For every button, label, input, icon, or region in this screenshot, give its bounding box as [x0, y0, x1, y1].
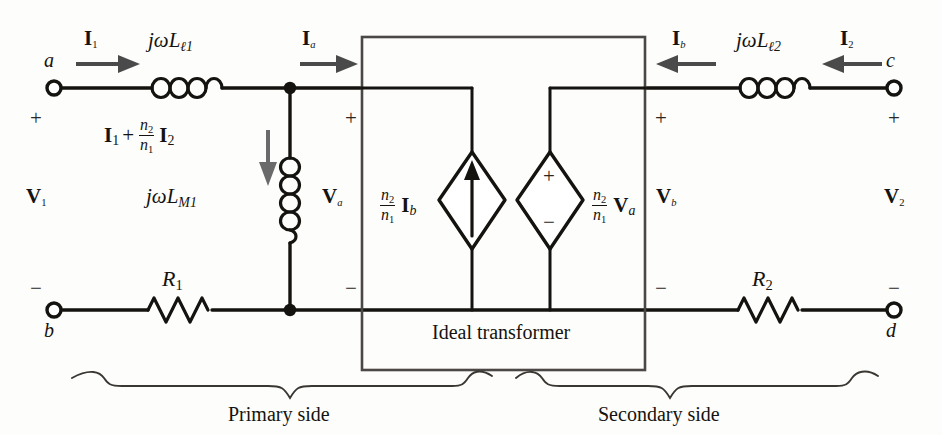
voltage-label-v1-symbol: V	[26, 184, 41, 208]
magnetizing-branch-current-expression: I1+n2n1I2	[104, 116, 174, 156]
arrow-i1	[76, 55, 140, 73]
polarity-plus-va: +	[345, 108, 357, 129]
component-label-leakage-secondary-subscript: ℓ2	[768, 39, 781, 54]
voltage-label-va-symbol: V	[322, 184, 337, 208]
component-label-leakage-primary-symbol: jωL	[148, 28, 180, 52]
node-dot-bottom	[284, 304, 296, 316]
voltage-source-label-symbol: V	[609, 193, 628, 217]
terminal-b	[47, 303, 61, 317]
turns-ratio-numerator-subscript-cs: 2	[389, 194, 394, 205]
component-label-r1-subscript: 1	[175, 277, 182, 293]
current-label-i1-symbol: I	[84, 26, 92, 50]
current-label-i2-subscript: 2	[848, 39, 853, 50]
component-label-r2-subscript: 2	[765, 277, 772, 293]
current-label-ib: Ib	[672, 28, 685, 51]
current-label-i1: I1	[84, 28, 97, 51]
voltage-label-va-subscript: a	[337, 197, 342, 208]
turns-ratio-numerator-voltage-source: n2	[592, 186, 607, 206]
voltage-label-v1: V1	[26, 186, 46, 209]
component-label-r2: R2	[752, 268, 773, 293]
voltage-label-v2-subscript: 2	[899, 197, 904, 208]
voltage-label-vb: Vb	[656, 186, 676, 209]
circuit-schematic-svg	[0, 0, 942, 435]
turns-ratio-denominator-voltage-source: n1	[592, 206, 607, 225]
polarity-minus-vb: −	[655, 278, 667, 299]
circuit-diagram: a b c d + − + − + − + − I1 Ia Ib I2 jωLℓ…	[0, 0, 942, 435]
voltage-label-v2-symbol: V	[884, 184, 899, 208]
polarity-minus-va: −	[345, 278, 357, 299]
current-label-i2-symbol: I	[840, 26, 848, 50]
turns-ratio-denominator-subscript-branch: 1	[148, 144, 153, 155]
component-label-r1: R1	[162, 268, 183, 293]
voltage-label-vb-subscript: b	[671, 197, 676, 208]
current-source-label-subscript: b	[409, 203, 416, 218]
turns-ratio-numerator-branch: n2	[139, 116, 154, 136]
terminal-c	[887, 81, 901, 95]
terminal-label-b: b	[44, 320, 54, 340]
arrow-ia	[300, 55, 358, 73]
branch-current-i1-symbol: I	[104, 123, 112, 147]
turns-ratio-denominator-subscript-vs: 1	[601, 214, 606, 225]
current-source-label: n2n1Ib	[378, 186, 416, 226]
voltage-source-label: n2n1Va	[590, 186, 635, 226]
voltage-source-plus-sign: +	[543, 166, 555, 187]
component-label-magnetizing-subscript: M1	[178, 195, 196, 210]
branch-current-i2-symbol: I	[156, 123, 167, 147]
terminal-label-d: d	[886, 320, 896, 340]
component-label-r1-symbol: R	[162, 266, 175, 291]
voltage-label-va: Va	[322, 186, 342, 209]
polarity-plus-vb: +	[655, 108, 667, 129]
arrow-magnetizing-branch-current	[259, 130, 277, 186]
turns-ratio-numerator-symbol-vs: n	[593, 186, 601, 203]
component-label-leakage-primary-subscript: ℓ1	[180, 39, 193, 54]
voltage-source-label-subscript: a	[628, 203, 635, 218]
component-label-magnetizing-symbol: jωL	[146, 184, 178, 208]
terminal-label-c: c	[886, 50, 895, 70]
brace-secondary-side	[516, 372, 878, 398]
resistor-r1	[148, 298, 208, 322]
arrow-i2	[822, 55, 882, 73]
inductor-leakage-secondary	[740, 79, 810, 98]
turns-ratio-numerator-symbol-branch: n	[140, 116, 148, 133]
polarity-plus-v1: +	[30, 108, 42, 129]
secondary-side-label: Secondary side	[598, 404, 720, 424]
component-label-magnetizing: jωLM1	[146, 186, 197, 210]
voltage-label-v2: V2	[884, 186, 904, 209]
turns-ratio-numerator-subscript-vs: 2	[601, 194, 606, 205]
turns-ratio-denominator-symbol-vs: n	[593, 206, 601, 223]
arrow-ib	[656, 55, 716, 73]
inductor-magnetizing	[281, 158, 300, 243]
voltage-label-v1-subscript: 1	[41, 197, 46, 208]
component-label-leakage-primary: jωLℓ1	[148, 30, 193, 54]
current-label-ia-symbol: I	[302, 26, 310, 50]
turns-ratio-fraction-current-source: n2n1	[380, 186, 395, 226]
component-label-leakage-secondary-symbol: jωL	[736, 28, 768, 52]
brace-primary-side	[72, 372, 492, 398]
current-label-i1-subscript: 1	[92, 39, 97, 50]
terminal-label-a: a	[44, 50, 54, 70]
inductor-leakage-primary	[152, 79, 222, 98]
turns-ratio-fraction-branch: n2n1	[139, 116, 154, 156]
turns-ratio-numerator-symbol-cs: n	[381, 186, 389, 203]
turns-ratio-denominator-symbol-cs: n	[381, 206, 389, 223]
voltage-label-vb-symbol: V	[656, 184, 671, 208]
terminal-d	[887, 303, 901, 317]
branch-current-plus-sign: +	[119, 123, 137, 147]
turns-ratio-denominator-branch: n1	[139, 136, 154, 155]
polarity-plus-v2: +	[888, 108, 900, 129]
primary-side-label: Primary side	[228, 404, 330, 424]
turns-ratio-denominator-symbol-branch: n	[140, 136, 148, 153]
current-source-label-symbol: I	[397, 193, 409, 217]
turns-ratio-numerator-subscript-branch: 2	[148, 124, 153, 135]
resistor-r2	[738, 298, 798, 322]
component-label-r2-symbol: R	[752, 266, 765, 291]
turns-ratio-fraction-voltage-source: n2n1	[592, 186, 607, 226]
polarity-minus-v1: −	[30, 278, 42, 299]
component-label-leakage-secondary: jωLℓ2	[736, 30, 781, 54]
node-dot-top	[284, 82, 296, 94]
terminal-a	[47, 81, 61, 95]
polarity-minus-v2: −	[888, 278, 900, 299]
ideal-transformer-label: Ideal transformer	[432, 322, 570, 342]
current-label-ia-subscript: a	[310, 39, 315, 50]
voltage-source-minus-sign: −	[543, 212, 555, 233]
